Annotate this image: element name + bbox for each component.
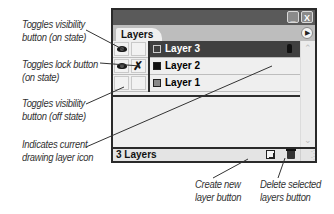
callout-line: Toggles lock button xyxy=(22,58,98,71)
visibility-toggle[interactable] xyxy=(114,42,129,56)
layer-name-area[interactable]: Layer 2 xyxy=(150,58,300,74)
delete-layer-button[interactable] xyxy=(287,149,295,159)
layer-count: 3 Layers xyxy=(116,149,157,161)
panel-status-bar: 3 Layers ·:·: xyxy=(113,147,315,161)
minimize-button[interactable]: _ xyxy=(287,11,299,23)
panel-menu-button[interactable]: ▶ xyxy=(301,27,313,39)
tab-layers[interactable]: Layers xyxy=(116,28,162,41)
callout-line: drawing layer icon xyxy=(22,151,93,164)
layer-row[interactable]: ✗ Layer 2 xyxy=(113,58,300,75)
callout-line: Create new xyxy=(195,178,241,191)
layer-name: Layer 2 xyxy=(165,60,200,72)
visibility-toggle[interactable] xyxy=(114,76,129,90)
scroll-down-icon[interactable]: ⌄ xyxy=(303,135,313,145)
layer-color-swatch xyxy=(153,45,161,53)
close-button[interactable]: X xyxy=(301,11,313,23)
current-drawing-layer-icon xyxy=(287,44,292,53)
layer-row[interactable]: Layer 1 xyxy=(113,75,300,92)
callout-delete-selected: Delete selected layers button xyxy=(260,178,321,204)
layers-panel: _ X Layers ▶ Layer 3 ✗ Layer 2 xyxy=(111,8,317,163)
panel-tab-bar: Layers ▶ xyxy=(113,25,315,41)
new-layer-button[interactable] xyxy=(266,150,275,159)
layer-name: Layer 1 xyxy=(165,77,200,89)
scroll-up-icon[interactable]: ⌃ xyxy=(303,43,313,53)
callout-line: button (off state) xyxy=(22,110,86,123)
close-icon: X xyxy=(304,13,310,23)
callout-line: button (on state) xyxy=(22,31,86,44)
callout-line: (on state) xyxy=(22,71,98,84)
callout-line: layer button xyxy=(195,191,241,204)
layer-name-area[interactable]: Layer 1 xyxy=(150,75,300,91)
layer-name-area[interactable]: Layer 3 xyxy=(150,41,300,57)
callout-line: Toggles visibility xyxy=(22,97,86,110)
minimize-icon: _ xyxy=(290,13,295,23)
tab-label: Layers xyxy=(121,29,153,40)
callout-lock-on: Toggles lock button (on state) xyxy=(22,58,98,84)
resize-grip-icon[interactable]: ·:·: xyxy=(300,149,315,161)
layers-end-divider xyxy=(113,95,300,97)
callout-current-drawing: Indicates current drawing layer icon xyxy=(22,138,93,164)
layer-color-swatch xyxy=(153,62,161,70)
callout-visibility-off: Toggles visibility button (off state) xyxy=(22,97,86,123)
column-divider xyxy=(148,41,150,92)
lock-toggle[interactable] xyxy=(131,76,146,90)
callout-line: layers button xyxy=(260,191,321,204)
callout-line: Delete selected xyxy=(260,178,321,191)
layer-name: Layer 3 xyxy=(165,43,200,55)
visibility-toggle[interactable] xyxy=(114,59,129,73)
layers-list: Layer 3 ✗ Layer 2 Layer 1 xyxy=(113,41,300,147)
callout-line: Toggles visibility xyxy=(22,18,86,31)
callout-visibility-on: Toggles visibility button (on state) xyxy=(22,18,86,44)
lock-icon: ✗ xyxy=(133,59,143,73)
vertical-scrollbar[interactable]: ⌃ ⌄ xyxy=(300,41,315,147)
lock-toggle[interactable]: ✗ xyxy=(131,59,146,73)
callout-create-new: Create new layer button xyxy=(195,178,241,204)
eye-icon xyxy=(117,63,127,69)
layer-row[interactable]: Layer 3 xyxy=(113,41,300,58)
layer-color-swatch xyxy=(153,79,161,87)
lock-toggle[interactable] xyxy=(131,42,146,56)
eye-icon xyxy=(117,46,127,52)
panel-title-bar[interactable]: _ X xyxy=(113,10,315,25)
panel-menu-arrow-icon: ▶ xyxy=(305,29,310,36)
callout-line: Indicates current xyxy=(22,138,93,151)
